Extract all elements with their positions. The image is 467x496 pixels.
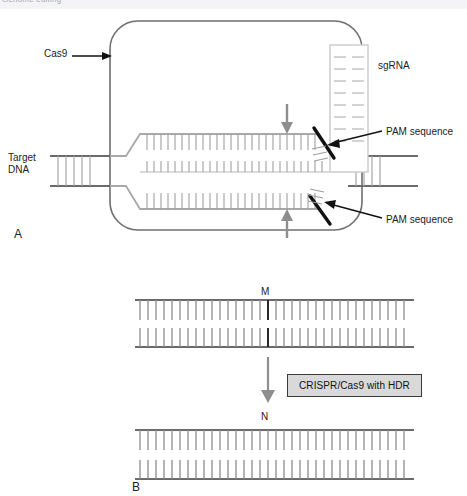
panel-b-duplex-after [135, 430, 414, 479]
cas9-label: Cas9 [44, 48, 67, 60]
panel-b-rungs-after-bottom [140, 460, 404, 479]
sgrna-label: sgRNA [378, 60, 410, 72]
pam-sequence-label-bottom: PAM sequence [386, 214, 453, 226]
cas9-protein-body [110, 21, 362, 230]
figure-container: Genome editing [0, 0, 467, 496]
panel-a-label: A [14, 228, 22, 242]
target-dna-label: Target DNA [8, 152, 36, 175]
panel-b-rungs-after-top [140, 430, 404, 450]
panel-b-rungs-before-bottom [140, 328, 404, 347]
sgrna-structure [330, 45, 368, 172]
marker-m-label: M [261, 286, 269, 298]
hdr-process-box: CRISPR/Cas9 with HDR [287, 374, 422, 397]
panel-b-duplex-before [135, 300, 414, 347]
target-dna-label-line2: DNA [8, 164, 36, 176]
target-dna-left [50, 156, 118, 186]
panel-b-rungs-before-top [140, 300, 404, 320]
pam-sequence-label-top: PAM sequence [386, 126, 453, 138]
figure-graphics [0, 0, 467, 496]
target-dna-label-line1: Target [8, 152, 36, 164]
hdr-process-arrow [261, 357, 275, 403]
panel-b-label: B [132, 481, 140, 495]
cas9-leader-line [72, 52, 112, 60]
marker-n-label: N [261, 411, 268, 423]
